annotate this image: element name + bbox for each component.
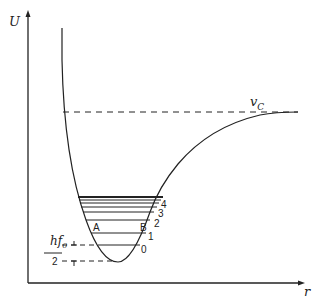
level-label-1: 1 <box>148 231 154 242</box>
x-axis-label: r <box>304 284 310 299</box>
y-axis-arrow-icon <box>26 10 31 17</box>
dissociation-label: vC <box>250 94 264 112</box>
y-axis-label: U <box>9 14 20 29</box>
hf-subscript: 0 <box>62 241 67 250</box>
level-label-2: 2 <box>154 218 160 229</box>
potential-energy-diagram <box>0 0 336 304</box>
hf-text: hf <box>50 234 62 248</box>
zero-point-denominator: 2 <box>52 256 58 267</box>
dissociation-label-sub: C <box>257 102 264 112</box>
level-label-4: 4 <box>161 199 167 210</box>
level-label-0: 0 <box>141 244 147 255</box>
zero-point-numerator: hf0 <box>50 234 67 250</box>
turning-point-a: A <box>93 222 100 233</box>
turning-point-b: B <box>140 222 147 233</box>
